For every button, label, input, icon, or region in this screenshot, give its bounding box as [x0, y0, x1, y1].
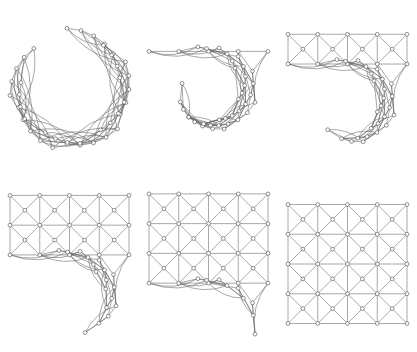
graph-edge	[223, 253, 238, 268]
graph-edge	[183, 109, 202, 126]
graph-node	[405, 203, 409, 207]
graph-edge	[40, 250, 59, 254]
graph-node	[316, 62, 320, 66]
graph-node	[196, 277, 200, 281]
graph-node	[17, 93, 21, 97]
graph-node	[230, 114, 234, 118]
graph-node	[221, 266, 225, 270]
graph-node	[350, 140, 354, 144]
graph-edge	[362, 219, 377, 234]
graph-edge	[164, 253, 179, 268]
graph-node	[205, 278, 209, 282]
graph-edge	[209, 239, 224, 254]
graph-edge	[10, 240, 25, 255]
graph-edge	[179, 194, 194, 209]
graph-node	[162, 237, 166, 241]
graph-edge	[348, 234, 363, 249]
graph-node	[51, 146, 55, 150]
graph-node	[217, 278, 221, 282]
graph-node	[383, 87, 387, 91]
graph-edge	[238, 268, 253, 283]
graph-edge	[392, 34, 407, 49]
graph-edge	[10, 250, 59, 258]
graph-edge	[393, 64, 407, 115]
graph-node	[118, 76, 122, 80]
graph-node	[251, 314, 255, 318]
panel-1-fully-curled	[0, 0, 139, 176]
graph-node	[379, 104, 383, 108]
graph-edge	[333, 309, 348, 324]
graph-node	[251, 237, 255, 241]
graph-edge	[223, 268, 238, 283]
graph-node	[15, 67, 19, 71]
graph-edge	[392, 219, 407, 234]
graph-node	[326, 128, 330, 132]
graph-edge	[209, 253, 224, 268]
graph-node	[217, 118, 221, 122]
graph-node	[38, 194, 42, 198]
graph-node	[209, 123, 213, 127]
graph-edge	[318, 279, 333, 294]
graph-node	[251, 69, 255, 73]
graph-node	[162, 266, 166, 270]
graph-edge	[377, 234, 392, 249]
graph-node	[384, 123, 388, 127]
graph-node	[390, 94, 394, 98]
graph-node	[181, 107, 185, 111]
graph-edge	[348, 205, 363, 220]
graph-edge	[209, 209, 224, 224]
graph-node	[346, 32, 350, 36]
graph-node	[249, 93, 253, 97]
graph-edge	[252, 283, 268, 303]
graph-edge	[318, 309, 333, 324]
graph-edge	[348, 249, 363, 264]
graph-edge	[114, 225, 129, 240]
graph-edge	[84, 240, 99, 255]
graph-node	[390, 277, 394, 281]
graph-node	[244, 74, 248, 78]
graph-edge	[238, 283, 252, 303]
graph-node	[38, 253, 42, 257]
graph-node	[83, 331, 87, 335]
graph-node	[236, 49, 240, 53]
graph-node	[236, 192, 240, 196]
graph-node	[375, 62, 379, 66]
graph-edge	[362, 294, 377, 309]
graph-edge	[318, 234, 333, 249]
graph-edge	[348, 219, 363, 234]
graph-node	[99, 128, 103, 132]
graph-node	[115, 64, 119, 68]
graph-node	[94, 270, 98, 274]
graph-edge	[303, 249, 318, 264]
graph-node	[147, 222, 151, 226]
graph-edge	[179, 279, 198, 283]
graph-node	[108, 121, 112, 125]
graph-node	[8, 253, 12, 257]
graph-node	[106, 314, 110, 318]
graph-edge	[333, 264, 348, 279]
graph-edge	[348, 309, 363, 324]
graph-edge	[70, 210, 85, 225]
graph-edge	[25, 225, 40, 240]
graph-unrolling-figure	[0, 0, 417, 352]
graph-node	[114, 304, 118, 308]
graph-edge	[149, 224, 164, 239]
graph-edge	[238, 283, 253, 315]
graph-edge	[110, 89, 129, 122]
graph-edge	[318, 49, 333, 64]
graph-node	[316, 322, 320, 326]
graph-node	[390, 247, 394, 251]
graph-edge	[288, 294, 303, 309]
graph-edge	[164, 194, 179, 209]
graph-edge	[180, 83, 182, 102]
graph-node	[233, 66, 237, 70]
graph-edge	[318, 34, 333, 49]
graph-node	[381, 77, 385, 81]
graph-edge	[238, 194, 253, 209]
graph-node	[226, 122, 230, 126]
graph-node	[192, 207, 196, 211]
graph-node	[375, 262, 379, 266]
graph-node	[66, 250, 70, 254]
graph-edge	[392, 234, 407, 249]
graph-node	[243, 84, 247, 88]
